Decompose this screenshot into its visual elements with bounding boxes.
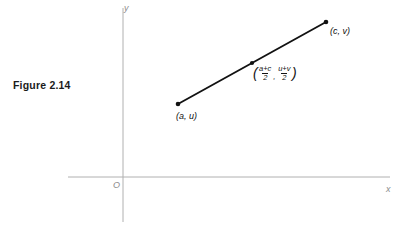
midpoint-y-numerator: u+v [277, 65, 291, 73]
point-a-u [176, 102, 181, 107]
midpoint-open-paren: ( [253, 66, 258, 80]
origin-label: O [113, 180, 120, 190]
midpoint-y-denominator: 2 [281, 73, 287, 82]
x-axis-label: x [386, 184, 391, 194]
midpoint-x-denominator: 2 [262, 73, 268, 82]
label-point-c-v: (c, v) [330, 26, 350, 36]
midpoint-close-paren: ) [292, 66, 297, 80]
label-point-a-u: (a, u) [176, 111, 197, 121]
point-c-v [324, 20, 329, 25]
midpoint-x-fraction: a+c 2 [258, 65, 272, 82]
midpoint-x-numerator: a+c [258, 65, 272, 73]
figure-container: Figure 2.14 y x O (a, u) (c, v) ( a+c 2 … [0, 0, 399, 229]
y-axis-label: y [124, 3, 129, 13]
midpoint-expression: ( a+c 2 , u+v 2 ) [253, 65, 297, 82]
midpoint-comma: , [273, 73, 277, 82]
midpoint-y-fraction: u+v 2 [277, 65, 291, 82]
label-point-midpoint: ( a+c 2 , u+v 2 ) [253, 64, 297, 82]
